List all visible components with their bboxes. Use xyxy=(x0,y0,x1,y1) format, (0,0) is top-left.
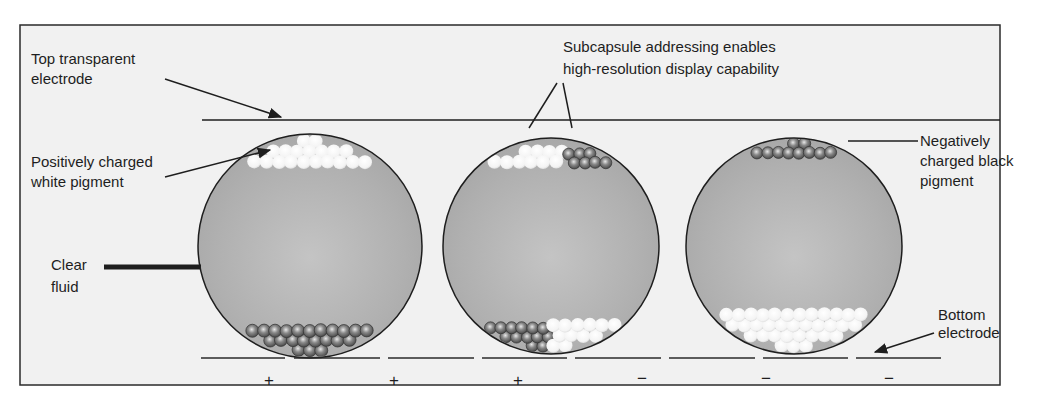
electrode-sign: + xyxy=(264,371,274,390)
white-pigment-particle xyxy=(358,155,372,169)
black-pigment-particle xyxy=(269,324,282,337)
black-pigment-particle xyxy=(751,147,763,159)
black-pigment-particle xyxy=(280,325,293,338)
black-pigment-particle xyxy=(568,157,580,169)
electrode-sign: + xyxy=(389,371,399,390)
white-pigment-particle xyxy=(781,308,795,322)
white-pigment-particle xyxy=(321,155,335,169)
white-pigment-particle xyxy=(841,308,855,322)
electrode-sign: − xyxy=(884,369,894,388)
white-pigment-particle xyxy=(536,155,550,169)
electrophoretic-display-diagram: + + + − − − Top transparent electrode Po… xyxy=(0,0,1056,415)
black-pigment-particle xyxy=(589,156,601,168)
white-pigment-particle xyxy=(524,155,538,169)
black-pigment-particle xyxy=(314,324,327,337)
white-pigment-particle xyxy=(817,307,831,321)
black-pigment-particle xyxy=(337,325,350,338)
white-pigment-particle xyxy=(346,155,360,169)
white-pigment-particle xyxy=(284,155,298,169)
white-pigment-particle xyxy=(732,308,746,322)
white-pigment-particle xyxy=(583,318,597,332)
white-pigment-particle xyxy=(558,318,572,332)
white-pigment-particle xyxy=(247,154,261,168)
white-pigment-particle xyxy=(595,318,609,332)
electrode-sign: − xyxy=(637,369,647,388)
white-pigment-particle xyxy=(260,155,274,169)
capsule-1 xyxy=(198,134,422,358)
black-pigment-particle xyxy=(516,322,528,334)
white-pigment-particle xyxy=(744,307,758,321)
black-pigment-particle xyxy=(360,324,373,337)
capsule-2 xyxy=(443,138,659,354)
white-pigment-particle xyxy=(549,154,563,168)
black-pigment-particle xyxy=(292,324,305,337)
black-pigment-particle xyxy=(803,146,815,158)
black-pigment-particle xyxy=(246,324,259,337)
black-pigment-particle xyxy=(495,322,507,334)
black-pigment-particle xyxy=(825,146,837,158)
white-pigment-particle xyxy=(333,155,347,169)
white-pigment-particle xyxy=(500,155,514,169)
label-black-pigment: Negatively charged black pigment xyxy=(920,132,1018,189)
white-pigment-particle xyxy=(719,308,733,322)
white-pigment-particle xyxy=(805,307,819,321)
capsule-3 xyxy=(686,137,902,354)
black-pigment-particle xyxy=(600,157,612,169)
white-pigment-particle xyxy=(297,155,311,169)
white-pigment-particle xyxy=(768,307,782,321)
white-pigment-particle xyxy=(571,318,585,332)
electrode-sign: + xyxy=(513,371,523,390)
electrode-sign: − xyxy=(761,369,771,388)
white-pigment-particle xyxy=(854,307,868,321)
